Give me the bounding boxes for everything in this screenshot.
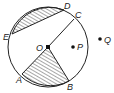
- label-e: E: [3, 32, 10, 42]
- label-d: D: [64, 1, 71, 11]
- label-p: P: [77, 42, 83, 52]
- center-point: [46, 45, 50, 49]
- point-q: [98, 37, 102, 41]
- geometry-diagram: O A B C D E P Q: [0, 0, 114, 93]
- label-a: A: [15, 75, 22, 85]
- point-p: [71, 45, 75, 49]
- radius-oc: [48, 19, 74, 47]
- label-q: Q: [104, 35, 111, 45]
- shaded-sector-aob: [22, 47, 69, 86]
- label-c: C: [75, 10, 82, 20]
- shaded-segment-ed: [12, 7, 64, 34]
- label-o: O: [36, 43, 43, 53]
- label-b: B: [67, 82, 73, 92]
